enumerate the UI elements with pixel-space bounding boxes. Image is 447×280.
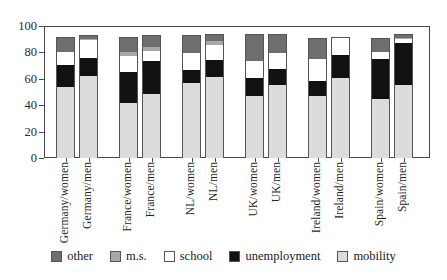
legend-label-other: other bbox=[67, 250, 93, 263]
bar-france-women bbox=[119, 37, 138, 158]
legend-item-mobility: mobility bbox=[337, 250, 395, 263]
legend-swatch-mobility bbox=[337, 251, 348, 262]
bar-france-men bbox=[142, 35, 161, 158]
bars-layer bbox=[44, 26, 430, 158]
y-tick-label: 40 bbox=[25, 99, 38, 112]
bar-segment-mobility bbox=[395, 85, 412, 158]
bar-segment-unemployment bbox=[80, 58, 97, 75]
bar-segment-other bbox=[143, 36, 160, 46]
bar-segment-mobility bbox=[120, 103, 137, 158]
x-tick-label: UK/men bbox=[271, 162, 285, 202]
bar-segment-school bbox=[246, 61, 263, 78]
bar-segment-other bbox=[183, 36, 200, 53]
bar-segment-mobility bbox=[206, 77, 223, 158]
bar-segment-unemployment bbox=[57, 65, 74, 87]
bar-segment-unemployment bbox=[206, 60, 223, 77]
bar-segment-unemployment bbox=[372, 59, 389, 100]
legend-label-ms: m.s. bbox=[126, 250, 147, 263]
legend-item-unemployment: unemployment bbox=[229, 250, 320, 263]
bar-segment-mobility bbox=[332, 78, 349, 158]
bar-segment-unemployment bbox=[395, 43, 412, 85]
legend-label-unemployment: unemployment bbox=[245, 250, 320, 263]
x-tick-label: France/men bbox=[145, 162, 159, 217]
legend-swatch-other bbox=[51, 251, 62, 262]
bar-spain-men bbox=[394, 34, 413, 158]
bar-segment-unemployment bbox=[120, 72, 137, 103]
y-tick-label: 100 bbox=[18, 20, 37, 33]
y-tick-label: 80 bbox=[25, 46, 38, 59]
bar-germany-women bbox=[56, 37, 75, 158]
x-tick-label: Spain/women bbox=[374, 162, 388, 226]
legend-item-ms: m.s. bbox=[110, 250, 147, 263]
x-tick-label: UK/women bbox=[248, 162, 262, 216]
bar-segment-mobility bbox=[269, 85, 286, 158]
y-tick-label: 0 bbox=[31, 152, 37, 165]
legend-label-mobility: mobility bbox=[353, 250, 395, 263]
bar-ireland-women bbox=[308, 38, 327, 158]
y-tick-label: 20 bbox=[25, 125, 38, 138]
bar-segment-school bbox=[206, 45, 223, 59]
bar-segment-school bbox=[183, 53, 200, 70]
legend-item-other: other bbox=[51, 250, 93, 263]
bar-segment-unemployment bbox=[183, 70, 200, 83]
x-tick-label: Germany/women bbox=[59, 162, 73, 243]
bar-nl-women bbox=[182, 35, 201, 158]
stacked-bar-chart: 020406080100 Germany/womenGermany/menFra… bbox=[0, 0, 447, 280]
bar-segment-unemployment bbox=[143, 61, 160, 94]
x-tick-label: NL/men bbox=[208, 162, 222, 201]
bar-segment-school bbox=[143, 51, 160, 61]
bar-segment-other bbox=[269, 35, 286, 53]
bar-segment-unemployment bbox=[309, 81, 326, 97]
bar-segment-mobility bbox=[183, 83, 200, 158]
bar-segment-mobility bbox=[143, 94, 160, 158]
bar-spain-women bbox=[371, 38, 390, 158]
bar-segment-other bbox=[246, 35, 263, 61]
bar-segment-mobility bbox=[309, 96, 326, 158]
x-tick-label: Germany/men bbox=[82, 162, 96, 229]
bar-nl-men bbox=[205, 34, 224, 158]
legend-swatch-school bbox=[164, 251, 175, 262]
x-tick-label: NL/women bbox=[185, 162, 199, 215]
bar-segment-school bbox=[332, 38, 349, 55]
bar-segment-school bbox=[309, 59, 326, 81]
bar-segment-school bbox=[80, 40, 97, 58]
x-axis: Germany/womenGermany/menFrance/womenFran… bbox=[44, 158, 430, 244]
bar-segment-other bbox=[372, 39, 389, 52]
bar-uk-women bbox=[245, 34, 264, 158]
legend-swatch-ms bbox=[110, 251, 121, 262]
bar-segment-unemployment bbox=[269, 69, 286, 85]
x-tick-label: Ireland/men bbox=[334, 162, 348, 219]
y-tick-label: 60 bbox=[25, 73, 38, 86]
bar-segment-school bbox=[57, 52, 74, 65]
bar-segment-school bbox=[120, 56, 137, 72]
legend-swatch-unemployment bbox=[229, 251, 240, 262]
bar-segment-unemployment bbox=[332, 55, 349, 79]
legend-label-school: school bbox=[180, 250, 213, 263]
bar-segment-other bbox=[57, 38, 74, 52]
bar-segment-other bbox=[309, 39, 326, 59]
bar-segment-other bbox=[120, 38, 137, 52]
x-tick-label: France/women bbox=[122, 162, 136, 232]
bar-uk-men bbox=[268, 34, 287, 158]
bar-segment-unemployment bbox=[246, 78, 263, 96]
x-tick-label: Spain/men bbox=[397, 162, 411, 212]
chart-legend: otherm.s.schoolunemploymentmobility bbox=[0, 250, 447, 263]
bar-germany-men bbox=[79, 35, 98, 158]
bar-segment-mobility bbox=[80, 76, 97, 159]
bar-segment-school bbox=[269, 53, 286, 69]
bar-segment-mobility bbox=[372, 99, 389, 158]
x-tick-label: Ireland/women bbox=[311, 162, 325, 233]
bar-segment-mobility bbox=[57, 87, 74, 158]
bar-segment-mobility bbox=[246, 96, 263, 158]
bar-ireland-men bbox=[331, 37, 350, 158]
legend-item-school: school bbox=[164, 250, 213, 263]
